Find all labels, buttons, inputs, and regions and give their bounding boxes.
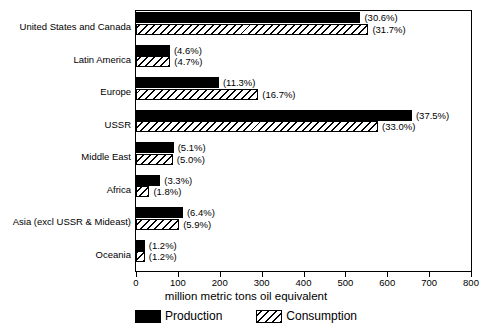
bar-consumption <box>136 89 258 100</box>
legend-label-consumption: Consumption <box>286 309 357 323</box>
x-axis-tick-label: 400 <box>284 277 324 288</box>
category-label: United States and Canada <box>0 22 131 32</box>
consumption-value-label: (1.2%) <box>149 251 177 262</box>
bar-consumption <box>136 251 145 262</box>
consumption-value-label: (33.0%) <box>382 121 415 132</box>
category-label: Oceania <box>0 250 131 260</box>
chart-row: Oceania(1.2%)(1.2%) <box>0 240 492 263</box>
bar-production <box>136 240 145 251</box>
x-axis-tick-label: 0 <box>116 277 156 288</box>
chart-row: United States and Canada(30.6%)(31.7%) <box>0 12 492 35</box>
production-value-label: (5.1%) <box>178 142 206 153</box>
x-axis-tick-label: 600 <box>367 277 407 288</box>
consumption-swatch-icon <box>256 310 282 323</box>
chart-row: Latin America(4.6%)(4.7%) <box>0 45 492 68</box>
category-label: Africa <box>0 185 131 195</box>
category-label: Europe <box>0 87 131 97</box>
bar-consumption <box>136 219 179 230</box>
chart-row: Asia (excl USSR & Mideast)(6.4%)(5.9%) <box>0 207 492 230</box>
category-label: Asia (excl USSR & Mideast) <box>0 217 131 227</box>
bar-production <box>136 207 183 218</box>
production-value-label: (6.4%) <box>187 207 215 218</box>
production-value-label: (1.2%) <box>149 240 177 251</box>
consumption-value-label: (1.8%) <box>153 186 181 197</box>
category-label: USSR <box>0 120 131 130</box>
x-axis-tick-label: 100 <box>158 277 198 288</box>
legend-item-production: Production <box>135 309 222 323</box>
production-value-label: (3.3%) <box>164 175 192 186</box>
bar-production <box>136 142 174 153</box>
chart-row: Africa(3.3%)(1.8%) <box>0 175 492 198</box>
category-label: Latin America <box>0 55 131 65</box>
bar-consumption <box>136 154 173 165</box>
bar-consumption <box>136 56 170 67</box>
bar-production <box>136 175 160 186</box>
chart-legend: Production Consumption <box>0 309 492 323</box>
bar-production <box>136 110 412 121</box>
consumption-value-label: (4.7%) <box>174 56 202 67</box>
x-axis-title: million metric tons oil equivalent <box>0 290 492 302</box>
bar-production <box>136 77 219 88</box>
bar-consumption <box>136 24 368 35</box>
consumption-value-label: (16.7%) <box>262 89 295 100</box>
legend-item-consumption: Consumption <box>256 309 357 323</box>
legend-label-production: Production <box>165 309 222 323</box>
x-axis-tick-label: 700 <box>409 277 449 288</box>
production-value-label: (30.6%) <box>364 12 397 23</box>
bar-production <box>136 12 360 23</box>
bar-production <box>136 45 170 56</box>
consumption-value-label: (5.9%) <box>183 219 211 230</box>
production-value-label: (37.5%) <box>416 110 449 121</box>
production-swatch-icon <box>135 310 161 323</box>
chart-row: Europe(11.3%)(16.7%) <box>0 77 492 100</box>
consumption-value-label: (31.7%) <box>372 24 405 35</box>
production-value-label: (4.6%) <box>174 45 202 56</box>
production-value-label: (11.3%) <box>223 77 256 88</box>
x-axis-tick-label: 500 <box>325 277 365 288</box>
category-label: Middle East <box>0 152 131 162</box>
chart-row: Middle East(5.1%)(5.0%) <box>0 142 492 165</box>
consumption-value-label: (5.0%) <box>177 154 205 165</box>
x-axis-tick-label: 200 <box>200 277 240 288</box>
bar-chart: United States and Canada(30.6%)(31.7%)La… <box>0 0 492 333</box>
bar-consumption <box>136 121 378 132</box>
x-axis-tick-label: 300 <box>242 277 282 288</box>
chart-row: USSR(37.5%)(33.0%) <box>0 110 492 133</box>
bar-consumption <box>136 186 149 197</box>
x-axis-tick-label: 800 <box>451 277 491 288</box>
